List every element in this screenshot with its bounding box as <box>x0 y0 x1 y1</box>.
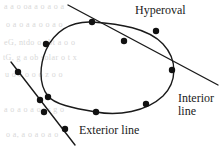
diagram-point <box>45 94 51 100</box>
hyperoval-label: Hyperoval <box>135 4 186 17</box>
interior-line <box>68 5 218 85</box>
marked-points <box>15 19 175 132</box>
diagram-point <box>153 28 159 34</box>
diagram-point <box>37 97 43 103</box>
exterior-line <box>11 62 75 145</box>
diagram-point <box>121 38 127 44</box>
hyperoval-curve <box>41 22 174 114</box>
interior-line-label-line2: line <box>178 105 214 118</box>
diagram-point <box>89 19 95 25</box>
diagram-point <box>43 41 49 47</box>
diagram-point <box>93 109 99 115</box>
diagram-point <box>15 69 21 75</box>
diagram-point <box>143 101 149 107</box>
diagram-point <box>169 67 175 73</box>
interior-line-label: Interior line <box>178 92 214 117</box>
interior-line-label-line1: Interior <box>178 92 214 105</box>
diagram-point <box>62 126 68 132</box>
diagram-point <box>41 109 47 115</box>
exterior-line-label: Exterior line <box>79 124 139 137</box>
